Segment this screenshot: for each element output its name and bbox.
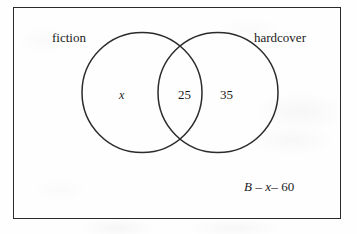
set-label-hardcover: hardcover: [254, 31, 306, 44]
region-value-fiction-only: x: [119, 89, 124, 101]
scanned-page: fiction hardcover x 25 35 B – x– 60: [0, 0, 357, 234]
annotation-expression: B – x– 60: [244, 180, 294, 193]
region-value-hardcover-only: 35: [220, 88, 233, 101]
annotation-term-b: B: [244, 179, 252, 194]
region-value-intersection: 25: [178, 88, 191, 101]
set-label-fiction: fiction: [52, 31, 86, 44]
annotation-term-60: – 60: [271, 179, 294, 194]
annotation-operator-minus: –: [252, 179, 265, 194]
hardcover-circle: [158, 33, 278, 153]
